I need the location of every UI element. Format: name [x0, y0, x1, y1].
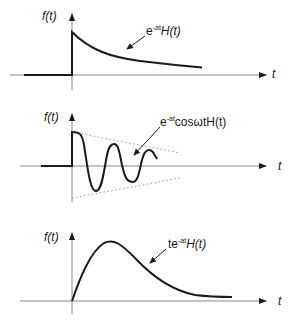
- curve-label: e-atH(t): [146, 24, 181, 37]
- panel-t-exponential: [20, 233, 266, 314]
- y-axis-label: f(t): [42, 10, 57, 22]
- signal-diagram: [0, 0, 294, 328]
- pointer-arrow: [127, 36, 145, 49]
- envelope-upper: [78, 133, 180, 153]
- curve-label: te-atH(t): [168, 237, 206, 250]
- curve-label: e-atcosωtH(t): [160, 115, 226, 128]
- pointer-arrow: [150, 249, 166, 263]
- envelope-lower: [72, 178, 180, 198]
- y-axis-label: f(t): [44, 111, 59, 123]
- x-axis-label: t: [278, 295, 281, 307]
- x-axis-label: t: [278, 160, 281, 172]
- curve-exponential: [24, 32, 202, 75]
- y-axis-label: f(t): [44, 231, 59, 243]
- panel-damped-cosine: [20, 114, 266, 202]
- panel-exponential: [10, 14, 266, 90]
- x-axis-label: t: [272, 68, 275, 80]
- curve-damped-cosine: [41, 132, 157, 191]
- curve-t-exponential: [72, 241, 232, 301]
